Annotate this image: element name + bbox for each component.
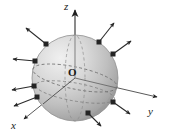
normal-vector [12,84,37,91]
vector-base-dot [44,42,49,47]
vector-base-dot [111,52,116,57]
normal-vector [14,95,40,107]
vector-base-dot [32,84,37,89]
normal-vector [111,100,131,115]
y-axis-label: y [148,106,153,117]
x-axis-label: x [11,120,16,131]
normal-vector [13,59,38,64]
figure-canvas: z y x O [0,0,171,136]
vector-base-dot [35,95,40,100]
vector-base-dot [86,111,91,116]
origin-label: O [68,67,77,78]
sphere-normals-diagram [0,0,171,136]
vector-base-dot [33,59,38,64]
normal-vector [111,41,132,57]
normal-vector [26,28,49,47]
vector-base-dot [111,100,116,105]
z-axis-label: z [64,1,68,12]
normal-vector [97,23,115,45]
vector-base-dot [97,40,102,45]
